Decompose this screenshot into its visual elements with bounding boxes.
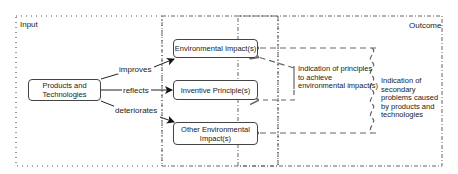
input-region-label: Input [20,20,38,29]
inventive-principle-node[interactable]: Inventive Principle(s) [173,80,258,100]
edge-label-reflects: reflects [122,86,150,95]
other-environmental-impact-node[interactable]: Other Environmental Impact(s) [173,122,258,145]
annotation-secondary: Indication of secondary problems caused … [381,77,447,120]
feedback-inventive [258,90,294,100]
edge-label-improves: improves [118,65,152,74]
products-technologies-node[interactable]: Products and Technologies [28,79,101,101]
wavy-brace [370,48,373,133]
feedback-env-principles [258,57,294,68]
environmental-impact-node[interactable]: Environmental Impact(s) [173,39,258,58]
edge-label-deteriorates: deteriorates [114,106,158,115]
outcome-region-label: Outcome [409,21,441,30]
annotation-principles: Indication of principles to achieve envi… [298,65,380,91]
